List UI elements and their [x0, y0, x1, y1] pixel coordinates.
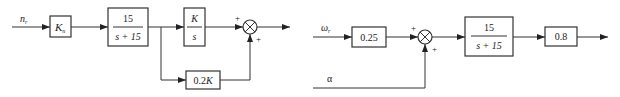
sum-sign-right-top: + [411, 23, 416, 33]
tf-numerator-right: 15 [484, 22, 494, 33]
gain-block-0.25-label: 0.25 [360, 32, 378, 43]
feedforward-to-sum [220, 34, 250, 80]
feedforward-block-label: 0.2K [193, 75, 214, 86]
feedforward-branch [161, 27, 186, 80]
input-label-nr: nr [20, 13, 28, 25]
sum-sign-left-top: + [235, 13, 240, 23]
summing-junction-left [243, 20, 257, 34]
summing-junction-right [418, 30, 432, 44]
input-label-alpha: α [327, 73, 333, 84]
tf-denominator-left: s + 15 [115, 31, 141, 42]
left-diagram: nr Kn 15 s + 15 K s 0.2K + + [12, 8, 290, 89]
tf-numerator-left: 15 [123, 13, 133, 24]
tf-denominator-right: s + 15 [476, 40, 502, 51]
integrator-denominator: s [193, 31, 197, 42]
input-label-omega: ωr [321, 22, 331, 34]
block-diagram-canvas: nr Kn 15 s + 15 K s 0.2K + + [0, 0, 620, 97]
sum-sign-right-bottom: + [432, 44, 437, 54]
sum-sign-left-bottom: + [256, 34, 261, 44]
right-diagram: ωr 0.25 α + + 15 s + 15 0.8 [313, 17, 608, 88]
integrator-numerator: K [190, 13, 199, 24]
output-gain-block-label: 0.8 [555, 31, 568, 42]
